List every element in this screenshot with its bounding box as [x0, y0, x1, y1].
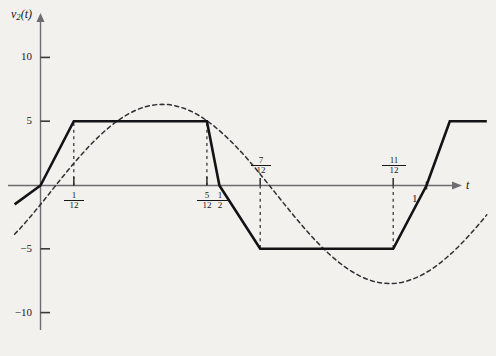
y-tick-label-minus-5: −5: [4, 243, 32, 254]
y-axis-arrow-icon: [37, 13, 45, 22]
y-axis-title: v2(t): [11, 8, 32, 22]
y-tick-label-5: 5: [8, 115, 32, 126]
clipped-sine-plot: [0, 0, 496, 356]
fraction-denominator: 12: [251, 165, 271, 175]
x-axis-arrow-icon: [452, 182, 462, 190]
y-tick-label-minus-10: −10: [0, 307, 32, 318]
fraction-numerator: 1: [64, 191, 84, 200]
y-tick-label-10: 10: [8, 51, 32, 62]
x-tick-label-1-2: 1 2: [211, 191, 229, 211]
x-tick-marks: [74, 177, 427, 190]
x-tick-label-11-12: 11 12: [382, 156, 406, 176]
x-tick-label-1-12: 1 12: [64, 191, 84, 211]
x-axis-title: t: [466, 179, 469, 191]
fraction-numerator: 11: [382, 156, 406, 165]
x-tick-label-1: 1: [412, 193, 418, 204]
figure-canvas: v2(t) t 10 5 −5 −10 1 12 5 12 1 2 7 12 1…: [0, 0, 496, 356]
fraction-denominator: 12: [382, 165, 406, 175]
fraction-numerator: 7: [251, 156, 271, 165]
fraction-numerator: 1: [211, 191, 229, 200]
y-axis-title-arg: (t): [21, 7, 32, 21]
fraction-denominator: 2: [211, 200, 229, 210]
x-tick-label-7-12: 7 12: [251, 156, 271, 176]
fraction-denominator: 12: [64, 200, 84, 210]
